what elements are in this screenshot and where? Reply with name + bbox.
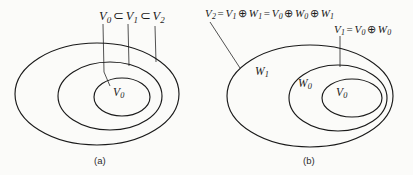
panel-a-subset-chain-label: V0⊂V1⊂V2	[99, 10, 165, 25]
panel-b-w1-base: W	[255, 65, 265, 77]
panel-a-middle-ellipse-v1	[58, 62, 162, 130]
v2-lhs: V	[205, 7, 212, 19]
panel-a-region-label-v0: V0	[113, 87, 125, 101]
chain-v0: V	[99, 9, 107, 23]
v2-oplus-3: ⊕	[309, 7, 321, 19]
panel-a-leader-line-v1	[128, 24, 129, 66]
panel-b-region-label-w1: W1	[255, 66, 269, 80]
panel-b-leader-line-v2	[210, 22, 240, 68]
chain-v0-subscript: 0	[107, 15, 112, 25]
panel-b-caption: (b)	[303, 155, 315, 166]
chain-v2-subscript: 2	[160, 15, 165, 25]
v1-oplus: ⊕	[366, 23, 378, 35]
v2-term-1-subscript: 1	[232, 12, 236, 21]
v1-term-2-subscript: 0	[387, 28, 391, 37]
v2-equals-2: =	[262, 7, 271, 19]
v2-term-2: W	[249, 7, 258, 19]
v2-term-3: V	[272, 7, 279, 19]
v2-term-5: W	[321, 7, 330, 19]
v1-term-1-subscript: 0	[361, 28, 365, 37]
panel-b-v2-decomposition-label: V2=V1⊕W1=V0⊕W0⊕W1	[205, 8, 334, 21]
panel-a-outer-ellipse-v2	[15, 43, 179, 145]
panel-a-leader-line-v0	[103, 24, 110, 86]
panel-a-v0-subscript: 0	[120, 91, 124, 100]
chain-v1: V	[126, 9, 134, 23]
chain-subset-1: ⊂	[112, 9, 126, 23]
v2-term-5-subscript: 1	[330, 12, 334, 21]
panel-b-w1-subscript: 1	[265, 70, 269, 79]
v2-term-4: W	[295, 7, 304, 19]
panel-b-region-label-v0: V0	[336, 87, 348, 101]
panel-b-w0-base: W	[298, 77, 308, 89]
panel-a-caption: (a)	[94, 155, 106, 166]
v2-oplus-2: ⊕	[283, 7, 295, 19]
panel-b-w0-subscript: 0	[308, 82, 312, 91]
v2-oplus-1: ⊕	[237, 7, 249, 19]
panel-b-inner-ellipse-v0	[322, 79, 382, 117]
figure-nested-subspaces: V0⊂V1⊂V2 V0 (a) V2=V1⊕W1=V0⊕W0⊕W1 V1=V0⊕…	[0, 0, 413, 175]
v1-term-2: W	[378, 23, 387, 35]
panel-b-v1-decomposition-label: V1=V0⊕W0	[334, 24, 391, 37]
panel-a-leader-line-v2	[155, 26, 156, 62]
v2-term-4-subscript: 0	[304, 12, 308, 21]
v1-lhs: V	[334, 23, 341, 35]
chain-subset-2: ⊂	[138, 9, 152, 23]
panel-b-outer-ellipse-v2	[227, 45, 393, 147]
panel-b-v0-subscript: 0	[343, 91, 347, 100]
panel-b-region-label-w0: W0	[298, 78, 312, 92]
